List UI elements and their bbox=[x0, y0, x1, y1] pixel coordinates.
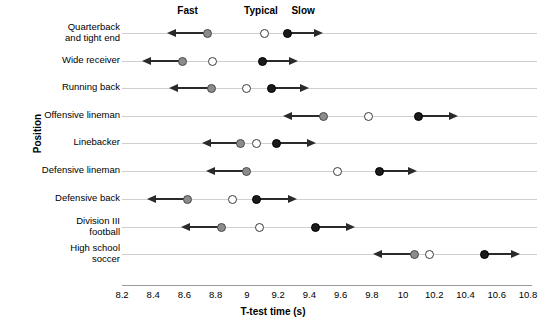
row-baseline bbox=[122, 143, 537, 144]
fast-marker bbox=[242, 167, 251, 176]
slow-marker bbox=[258, 57, 267, 66]
x-tick-label: 8.2 bbox=[115, 289, 128, 300]
slow-arrow-head bbox=[314, 29, 323, 37]
row-baseline bbox=[122, 254, 537, 255]
fast-arrow-head bbox=[147, 195, 156, 203]
fast-arrow-head bbox=[169, 84, 178, 92]
slow-arrow-head bbox=[346, 223, 355, 231]
fast-arrow-head bbox=[142, 57, 151, 65]
slow-arrow-shaft bbox=[419, 115, 450, 117]
slow-marker bbox=[311, 223, 320, 232]
x-tick-label: 9.4 bbox=[303, 289, 316, 300]
slow-marker bbox=[414, 112, 423, 121]
typical-marker bbox=[242, 84, 251, 93]
slow-arrow-shaft bbox=[272, 87, 301, 89]
fast-marker bbox=[183, 195, 192, 204]
fast-marker bbox=[217, 223, 226, 232]
slow-arrow-shaft bbox=[277, 142, 308, 144]
fast-arrow-head bbox=[373, 250, 382, 258]
slow-arrow-shaft bbox=[380, 170, 409, 172]
fast-arrow-head bbox=[283, 112, 292, 120]
typical-marker bbox=[260, 29, 269, 38]
slow-arrow-head bbox=[288, 195, 297, 203]
typical-marker bbox=[425, 250, 434, 259]
x-tick-label: 9.2 bbox=[272, 289, 285, 300]
fast-marker bbox=[410, 250, 419, 259]
x-tick-label: 10.8 bbox=[519, 289, 538, 300]
slow-arrow-head bbox=[408, 167, 417, 175]
row-baseline bbox=[122, 116, 537, 117]
fast-arrow-shaft bbox=[177, 87, 211, 89]
x-tick-label: 8.8 bbox=[209, 289, 222, 300]
slow-marker bbox=[252, 195, 261, 204]
fast-marker bbox=[178, 57, 187, 66]
slow-marker bbox=[480, 250, 489, 259]
slow-arrow-head bbox=[300, 84, 309, 92]
typical-marker bbox=[252, 139, 261, 148]
plot-area bbox=[0, 0, 546, 333]
fast-marker bbox=[203, 29, 212, 38]
x-tick-label: 9.8 bbox=[365, 289, 378, 300]
t-test-time-chart: Position Quarterbackand tight endWide re… bbox=[0, 0, 546, 333]
slow-marker bbox=[283, 29, 292, 38]
fast-arrow-head bbox=[206, 167, 215, 175]
x-tick-label: 9 bbox=[244, 289, 249, 300]
slow-arrow-shaft bbox=[256, 198, 289, 200]
row-baseline bbox=[122, 171, 537, 172]
x-axis-title: T-test time (s) bbox=[0, 306, 546, 317]
slow-marker bbox=[272, 139, 281, 148]
x-axis-line bbox=[122, 285, 532, 286]
typical-marker bbox=[208, 57, 217, 66]
fast-marker bbox=[319, 112, 328, 121]
slow-marker bbox=[267, 84, 276, 93]
x-tick-label: 8.4 bbox=[147, 289, 160, 300]
fast-marker bbox=[236, 139, 245, 148]
typical-marker bbox=[333, 167, 342, 176]
slow-arrow-head bbox=[511, 250, 520, 258]
fast-marker bbox=[207, 84, 216, 93]
slow-arrow-head bbox=[307, 139, 316, 147]
slow-arrow-shaft bbox=[316, 226, 347, 228]
fast-arrow-head bbox=[202, 139, 211, 147]
x-tick-label: 10.6 bbox=[488, 289, 507, 300]
x-tick-label: 10.2 bbox=[425, 289, 444, 300]
x-tick-label: 8.6 bbox=[178, 289, 191, 300]
x-tick-label: 10 bbox=[398, 289, 409, 300]
x-tick-label: 10.4 bbox=[456, 289, 475, 300]
x-tick-label: 9.6 bbox=[334, 289, 347, 300]
slow-marker bbox=[375, 167, 384, 176]
fast-arrow-head bbox=[181, 223, 190, 231]
typical-marker bbox=[255, 223, 264, 232]
typical-marker bbox=[364, 112, 373, 121]
fast-arrow-head bbox=[167, 29, 176, 37]
slow-arrow-head bbox=[289, 57, 298, 65]
slow-arrow-head bbox=[449, 112, 458, 120]
typical-marker bbox=[228, 195, 237, 204]
